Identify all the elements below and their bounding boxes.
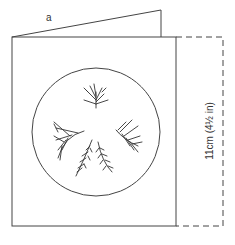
card-drawing	[0, 0, 235, 245]
sprig-left	[54, 122, 84, 160]
circular-window	[32, 68, 160, 196]
front-card	[12, 37, 176, 226]
sprig-right	[116, 120, 142, 152]
card-diagram: a 11cm (4½ in)	[0, 0, 235, 245]
sprig-bottom-right	[96, 142, 113, 172]
fold-extension-dashed	[176, 37, 223, 226]
sprig-bottom-left	[76, 140, 92, 176]
leaf-sprigs	[54, 84, 142, 176]
sprig-top	[84, 84, 108, 108]
back-card-edge	[12, 10, 161, 37]
flap-label: a	[46, 12, 52, 23]
height-dimension-label: 11cm (4½ in)	[204, 101, 215, 161]
